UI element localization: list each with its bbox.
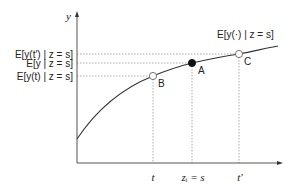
- point-c-label: C: [244, 56, 251, 67]
- x-axis-arrow-icon: [277, 161, 283, 165]
- point-a: [188, 59, 195, 66]
- guide-lines: [77, 54, 239, 163]
- point-c: [235, 50, 242, 57]
- point-b-label: B: [158, 78, 165, 89]
- y-axis-label: y: [65, 10, 71, 22]
- y-tick-y: E[y | z = s]: [26, 58, 73, 69]
- y-axis-arrow-icon: [75, 11, 79, 17]
- x-tick-t: t: [151, 171, 155, 183]
- curve-label: E[y(·) | z = s]: [217, 29, 274, 40]
- x-tick-tprime: t′: [237, 171, 243, 183]
- point-b: [149, 72, 156, 79]
- diagram-canvas: B A C E[y(·) | z = s] y E[y(t′) | z = s]…: [0, 0, 288, 185]
- y-tick-t: E[y(t) | z = s]: [17, 71, 73, 82]
- point-a-label: A: [198, 65, 205, 76]
- x-tick-zi: zᵢ = s: [180, 171, 204, 183]
